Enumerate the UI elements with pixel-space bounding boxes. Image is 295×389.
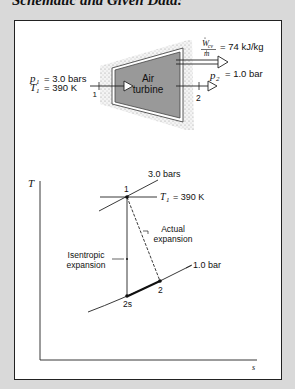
outlet-pressure-sub: 2 [216,75,220,83]
work-denominator: m [204,49,210,58]
state-point-2s [125,294,129,298]
state-point-2 [158,279,162,283]
isobar-high-label: 3.0 bars [148,169,181,179]
actual-label-line2: expansion [154,234,193,244]
isotherm-value: = 390 K [173,192,204,202]
outlet-pressure-symbol: p [209,69,216,81]
inlet-temperature-sub: 1 [36,87,40,95]
state-point-2s-label: 2s [123,299,132,309]
diagram-canvas: Air turbine 1 p 1 = 3.0 bars T 1 = 390 K… [0,0,295,389]
isobar-low-leader [186,266,191,269]
state-point-2-label: 2 [158,285,163,295]
turbine-schematic: Air turbine 1 p 1 = 3.0 bars T 1 = 390 K… [29,37,264,130]
state-point-1-label: 1 [124,184,129,194]
work-arrow-icon [218,56,228,68]
ts-diagram: T s 3.0 bars T 1 = 390 K 1.0 bar Isentro… [28,169,257,372]
isentropic-marker-icon [126,258,128,260]
isentropic-label-line1: Isentropic [68,250,106,260]
outlet-pressure-value: = 1.0 bar [225,68,263,79]
isotherm-sub: 1 [166,196,170,204]
s-axis-label: s [252,363,255,372]
inlet-pressure-sub: 1 [36,78,40,86]
isentropic-label-line2: expansion [67,260,106,270]
work-dot-icon [204,37,205,38]
actual-label-line1: Actual [161,224,185,234]
outlet-state-label: 2 [196,93,201,103]
mass-dot-icon [206,51,207,52]
work-value: = 74 kJ/kg [220,41,264,52]
isobar-low [88,265,192,312]
state-point-1 [125,195,129,199]
inlet-state-label: 1 [93,90,98,99]
inlet-temperature-value: = 390 K [44,82,78,93]
isobar-low-thick-segment [128,281,160,296]
turbine-label-line1: Air [142,73,155,84]
isobar-low-label: 1.0 bar [193,260,221,270]
turbine-label-line2: turbine [133,84,164,95]
t-axis-label: T [28,177,35,189]
